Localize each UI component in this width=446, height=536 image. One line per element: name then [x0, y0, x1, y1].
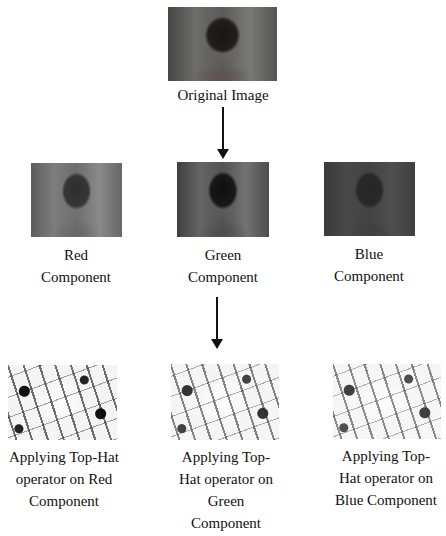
tophat-green-label: Applying Top- Hat operator on Green Comp… — [162, 446, 290, 534]
label-line: Hat operator on — [162, 468, 290, 490]
arrow-down-icon — [216, 297, 218, 347]
label-line: Blue Component — [322, 489, 446, 511]
red-component-image — [31, 163, 122, 237]
original-image — [168, 7, 277, 81]
green-component-image — [177, 162, 269, 237]
label-line: Component — [162, 512, 290, 534]
label-line: Blue — [309, 243, 429, 265]
original-image-label: Original Image — [148, 84, 298, 106]
label-line: Green — [163, 244, 283, 266]
label-line: Green — [162, 490, 290, 512]
red-component-label: Red Component — [16, 244, 136, 288]
tophat-blue-image — [333, 364, 441, 439]
tophat-green-image — [171, 364, 279, 440]
label-line: Component — [0, 490, 128, 512]
label-line: Component — [309, 265, 429, 287]
label-line: Component — [163, 266, 283, 288]
tophat-red-label: Applying Top-Hat operator on Red Compone… — [0, 446, 128, 512]
label-line: Red — [16, 244, 136, 266]
arrow-down-icon — [222, 107, 224, 157]
label-line: Hat operator on — [322, 467, 446, 489]
tophat-blue-label: Applying Top- Hat operator on Blue Compo… — [322, 445, 446, 511]
label-line: Applying Top- — [322, 445, 446, 467]
original-label-text: Original Image — [177, 87, 268, 103]
blue-component-label: Blue Component — [309, 243, 429, 287]
green-component-label: Green Component — [163, 244, 283, 288]
blue-component-image — [324, 162, 415, 236]
label-line: Component — [16, 266, 136, 288]
label-line: operator on Red — [0, 468, 128, 490]
tophat-red-image — [8, 365, 117, 440]
label-line: Applying Top- — [162, 446, 290, 468]
label-line: Applying Top-Hat — [0, 446, 128, 468]
